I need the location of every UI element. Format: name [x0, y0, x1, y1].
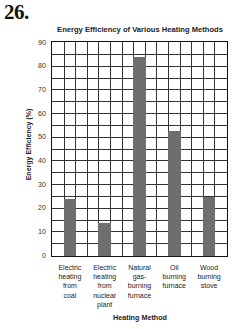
y-tick-label: 60 [28, 109, 46, 118]
gridline-horizontal [52, 54, 227, 55]
gridline-vertical [156, 42, 157, 256]
x-category-label: Naturalgas-burningfurnace [121, 263, 159, 300]
chart-title: Energy Efficiency of Various Heating Met… [40, 25, 240, 34]
y-tick-label: 30 [28, 180, 46, 189]
y-tick-label: 50 [28, 132, 46, 141]
y-tick-label: 20 [28, 203, 46, 212]
bar [133, 57, 146, 256]
y-tick-label: 80 [28, 61, 46, 70]
bar [168, 131, 181, 256]
x-category-label: Woodburningstove [190, 263, 228, 291]
question-number: 26. [4, 0, 29, 25]
gridline-vertical [87, 42, 88, 256]
gridline-vertical [191, 42, 192, 256]
y-tick-label: 0 [28, 251, 46, 260]
x-category-label: Oilburningfurnace [155, 263, 193, 291]
bar [98, 223, 111, 256]
y-tick-label: 40 [28, 156, 46, 165]
bar [203, 197, 216, 256]
y-tick-label: 10 [28, 227, 46, 236]
y-tick-label: 90 [28, 38, 46, 47]
plot-area [51, 41, 228, 257]
x-category-label: Electricheatingfromcoal [51, 263, 89, 300]
y-tick-label: 70 [28, 85, 46, 94]
x-axis-label: Heating Method [40, 313, 240, 322]
x-category-label: Electricheatingfromnuclearplant [86, 263, 124, 309]
gridline-vertical [122, 42, 123, 256]
bar [64, 199, 77, 256]
